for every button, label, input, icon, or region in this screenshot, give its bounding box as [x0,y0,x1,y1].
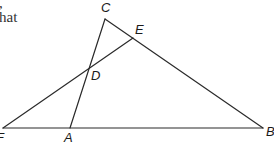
label-E: E [135,22,144,37]
label-A: A [63,130,73,143]
label-B: B [266,124,274,139]
geometry-diagram: C E D A B F [0,0,274,143]
label-D: D [91,68,100,83]
label-F: F [0,130,5,143]
label-C: C [101,0,111,15]
segment-CB [105,19,263,128]
segment-FE [3,38,133,128]
